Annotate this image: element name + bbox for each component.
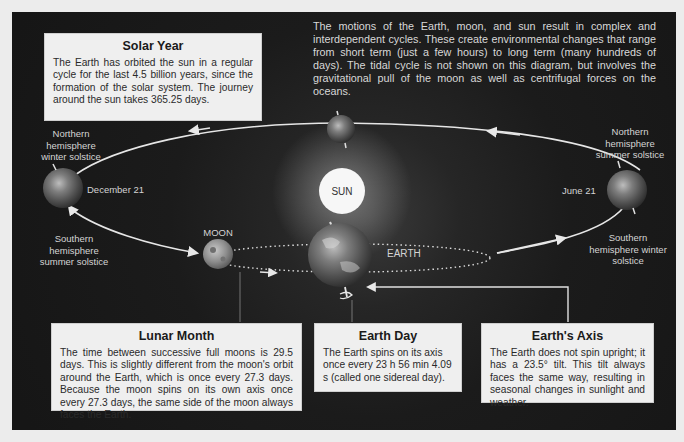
- earth-top-position: [327, 115, 355, 143]
- label-earth: EARTH: [387, 248, 421, 260]
- earth-center: [308, 223, 372, 287]
- earth-december: [43, 168, 83, 208]
- earth-day-box: Earth Day The Earth spins on its axis on…: [314, 323, 462, 392]
- earth-day-body: The Earth spins on its axis once every 2…: [323, 347, 453, 384]
- label-december: December 21: [87, 184, 144, 196]
- label-june: June 21: [562, 185, 596, 197]
- orbit-arrow-bottom-right: [497, 238, 565, 253]
- label-south-summer: Southern hemisphere summer solstice: [34, 233, 114, 268]
- earths-axis-body: The Earth does not spin upright; it has …: [490, 347, 645, 409]
- lunar-month-body: The time between successive full moons i…: [60, 347, 293, 421]
- solar-year-box: Solar Year The Earth has orbited the sun…: [44, 33, 262, 121]
- label-sun: SUN: [320, 186, 364, 198]
- earths-axis-box: Earth's Axis The Earth does not spin upr…: [481, 323, 654, 403]
- label-moon: MOON: [196, 227, 240, 239]
- label-north-winter: Northern hemisphere winter solstice: [36, 128, 106, 163]
- lunar-month-title: Lunar Month: [60, 329, 293, 343]
- label-south-winter: Southern hemisphere winter solstice: [588, 232, 668, 267]
- label-north-summer: Northern hemisphere summer solstice: [590, 126, 670, 161]
- moon: [203, 239, 233, 269]
- earth-day-title: Earth Day: [323, 329, 453, 343]
- solar-year-title: Solar Year: [53, 39, 253, 53]
- lunar-month-box: Lunar Month The time between successive …: [51, 323, 302, 411]
- moon-orbit-arrow: [260, 272, 276, 273]
- earths-axis-title: Earth's Axis: [490, 329, 645, 343]
- intro-text: The motions of the Earth, moon, and sun …: [313, 20, 656, 99]
- solar-year-body: The Earth has orbited the sun in a regul…: [53, 57, 253, 107]
- orbit-arrow-top-left: [190, 128, 210, 131]
- axis-connector: [372, 287, 568, 322]
- earth-june: [607, 170, 647, 210]
